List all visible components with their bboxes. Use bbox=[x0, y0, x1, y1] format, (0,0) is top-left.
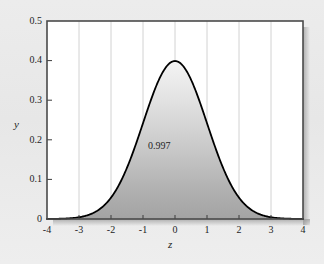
xtick-label-0: 0 bbox=[163, 224, 187, 235]
xtick-label--2: -2 bbox=[99, 224, 123, 235]
ytick-label-0.4: 0.4 bbox=[6, 54, 42, 65]
xtick-label-2: 2 bbox=[227, 224, 251, 235]
xtick-label--1: -1 bbox=[131, 224, 155, 235]
xtick-label-4: 4 bbox=[291, 224, 315, 235]
ytick-label-0.2: 0.2 bbox=[6, 134, 42, 145]
ytick-label-0.1: 0.1 bbox=[6, 173, 42, 184]
xtick-label-1: 1 bbox=[195, 224, 219, 235]
xtick-label-3: 3 bbox=[259, 224, 283, 235]
ytick-label-0.5: 0.5 bbox=[6, 15, 42, 26]
y-axis-title: y bbox=[14, 118, 19, 130]
xtick-label--3: -3 bbox=[67, 224, 91, 235]
x-axis-title: z bbox=[168, 238, 172, 250]
normal-distribution-chart: 0.5 0.4 0.3 0.2 0.1 0 -4 -3 -2 -1 0 1 2 … bbox=[0, 0, 324, 264]
ytick-label-0.3: 0.3 bbox=[6, 94, 42, 105]
xtick-label--4: -4 bbox=[35, 224, 59, 235]
panel-shadow-right bbox=[303, 27, 310, 225]
area-annotation-label: 0.997 bbox=[148, 140, 171, 151]
ytick-label-0: 0 bbox=[6, 213, 42, 224]
